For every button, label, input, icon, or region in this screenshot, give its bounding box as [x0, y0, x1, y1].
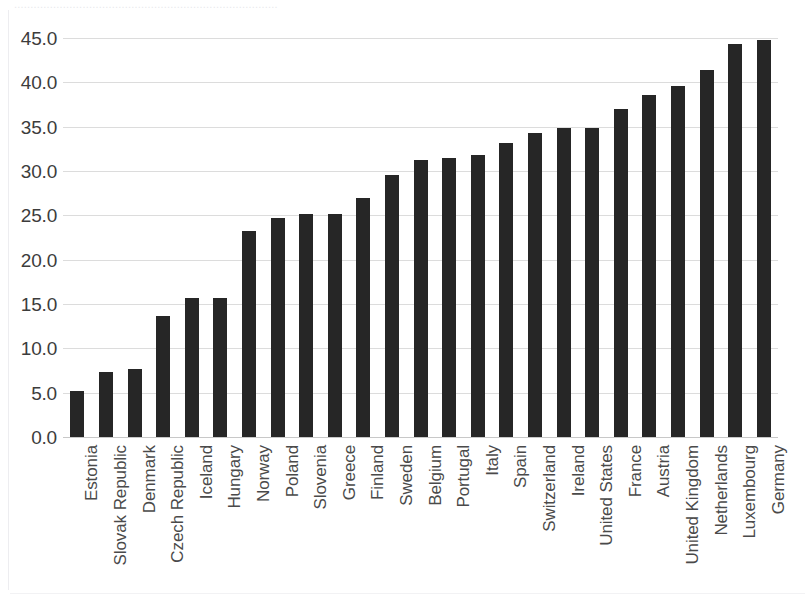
bar: [156, 316, 170, 437]
y-axis-tick-label: 10.0: [5, 339, 57, 358]
x-axis-tick-label: Norway: [255, 445, 272, 502]
bar: [385, 175, 399, 437]
bar: [213, 298, 227, 437]
y-axis-tick-label: 45.0: [5, 29, 57, 48]
bar: [728, 44, 742, 437]
x-axis-tick-label: Spain: [512, 445, 529, 488]
bar: [299, 214, 313, 437]
x-axis-tick-label: Slovenia: [312, 445, 329, 509]
x-axis-tick-label: Germany: [770, 445, 787, 514]
y-axis-tick-label: 40.0: [5, 73, 57, 92]
y-axis-tick-labels: 0.05.010.015.020.025.030.035.040.045.0: [0, 38, 57, 437]
y-axis-tick-label: 20.0: [5, 251, 57, 270]
x-axis-tick-label: Belgium: [427, 445, 444, 506]
bar: [642, 95, 656, 437]
bar: [757, 40, 771, 437]
x-axis-tick-label: United States: [598, 445, 615, 546]
bar: [271, 218, 285, 437]
cropped-title-sliver: ........................................…: [14, 0, 809, 9]
bar: [557, 128, 571, 437]
x-axis-tick-label: Ireland: [570, 445, 587, 496]
bar: [528, 133, 542, 437]
bar: [671, 86, 685, 437]
bar: [70, 391, 84, 437]
x-axis-tick-label: Denmark: [141, 445, 158, 513]
bar: [499, 143, 513, 437]
x-axis-tick-labels: EstoniaSlovak RepublicDenmarkCzech Repub…: [63, 437, 778, 602]
x-axis-tick-label: Portugal: [455, 445, 472, 508]
x-axis-tick-label: United Kingdom: [684, 445, 701, 565]
x-axis-tick-label: Poland: [284, 445, 301, 497]
bar: [414, 160, 428, 437]
x-axis-tick-label: Hungary: [226, 445, 243, 509]
bar: [328, 214, 342, 437]
x-axis-tick-label: Greece: [341, 445, 358, 500]
x-axis-tick-label: Iceland: [198, 445, 215, 499]
bar: [242, 231, 256, 437]
x-axis-tick-label: Slovak Republic: [112, 445, 129, 565]
y-axis-tick-label: 15.0: [5, 295, 57, 314]
bar: [185, 298, 199, 437]
bars-layer: [63, 38, 778, 437]
bar: [128, 369, 142, 437]
x-axis-tick-label: Austria: [655, 445, 672, 497]
y-axis-tick-label: 35.0: [5, 118, 57, 137]
bar: [471, 155, 485, 437]
bar: [356, 198, 370, 437]
bar: [442, 158, 456, 437]
x-axis-tick-label: Czech Republic: [169, 445, 186, 563]
x-axis-tick-label: Netherlands: [713, 445, 730, 536]
bar: [614, 109, 628, 437]
x-axis-tick-label: Finland: [369, 445, 386, 500]
x-axis-tick-label: Sweden: [398, 445, 415, 506]
y-axis-tick-label: 0.0: [5, 428, 57, 447]
y-axis-tick-label: 5.0: [5, 384, 57, 403]
bar: [700, 70, 714, 437]
x-axis-tick-label: Estonia: [83, 445, 100, 501]
y-axis-tick-label: 30.0: [5, 162, 57, 181]
x-axis-tick-label: France: [627, 445, 644, 497]
bar: [585, 128, 599, 437]
x-axis-tick-label: Italy: [484, 445, 501, 476]
y-axis-tick-label: 25.0: [5, 206, 57, 225]
bar-chart-figure: ........................................…: [0, 0, 809, 606]
bar: [99, 372, 113, 437]
x-axis-tick-label: Switzerland: [541, 445, 558, 532]
x-axis-tick-label: Luxembourg: [741, 445, 758, 539]
